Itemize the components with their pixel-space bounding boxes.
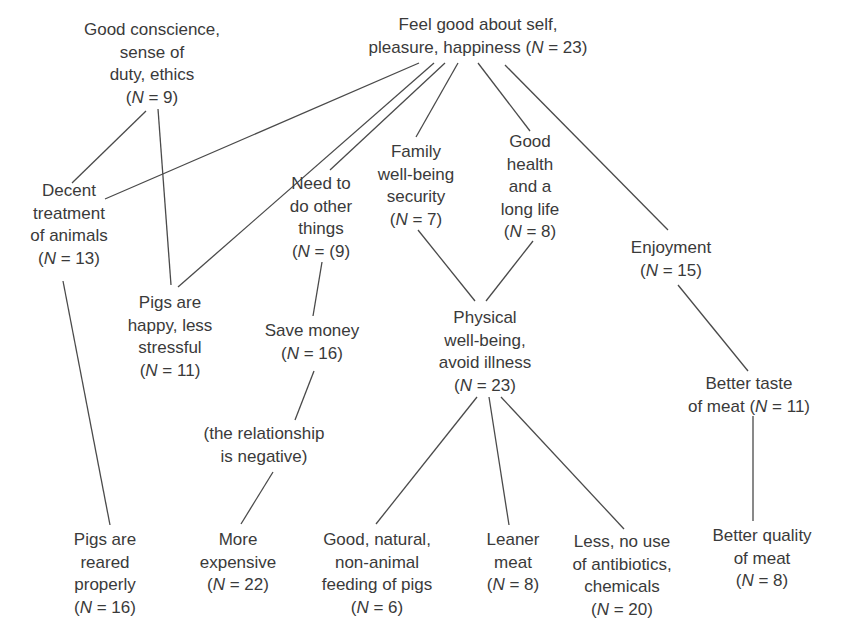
node-label-line: Family [378,141,455,164]
edge-family-to-physical [418,230,475,301]
node-enjoyment: Enjoyment(N = 15) [631,237,711,282]
node-label-line: (N = 11) [128,360,213,383]
node-label-line: (N = 23) [439,375,532,398]
edge-save_money-to-negative [295,371,314,420]
edge-decent-to-pigs_reared [63,281,110,525]
node-feeding: Good, natural,non-animalfeeding of pigs(… [322,529,433,619]
node-physical: Physicalwell-being,avoid illness(N = 23) [439,307,532,397]
node-label-line: (N = (9) [290,241,352,264]
node-label-line: (N = 8) [487,574,540,597]
node-negative: (the relationshipis negative) [204,423,325,468]
node-label-line: is negative) [204,446,325,469]
edge-physical-to-feeding [376,397,477,524]
node-label-line: treatment [30,203,107,226]
node-label-line: Good [501,131,560,154]
node-label-line: More [200,529,277,552]
node-label-line: Better quality [712,525,811,548]
node-label-line: (N = 7) [378,209,455,232]
node-save-money: Save money(N = 16) [265,320,360,365]
node-label-line: of meat (N = 11) [688,396,810,419]
node-label-line: meat [487,552,540,575]
node-label-line: Good conscience, [84,19,220,42]
node-need-other: Need todo otherthings(N = (9) [290,173,352,263]
node-family: Familywell-beingsecurity(N = 7) [378,141,455,231]
node-label-line: Better taste [688,373,810,396]
edge-feel_good-to-health [478,63,530,131]
node-label-line: Feel good about self, [369,14,588,37]
node-label-line: Good, natural, [322,529,433,552]
node-label-line: properly [74,574,136,597]
node-label-line: non-animal [322,552,433,575]
node-label-line: duty, ethics [84,64,220,87]
node-taste: Better tasteof meat (N = 11) [688,373,810,418]
node-label-line: happy, less [128,315,213,338]
node-label-line: of animals [30,225,107,248]
node-label-line: Less, no use [572,531,671,554]
node-label-line: (N = 22) [200,574,277,597]
edge-conscience-to-pigs_happy [158,109,171,285]
node-label-line: (N = 16) [265,343,360,366]
node-label-line: Enjoyment [631,237,711,260]
node-pigs-reared: Pigs arerearedproperly(N = 16) [74,529,136,619]
edge-need_other-to-save_money [313,262,322,316]
edge-physical-to-leaner [489,397,509,525]
node-label-line: Pigs are [128,292,213,315]
node-pigs-happy: Pigs arehappy, lessstressful(N = 11) [128,292,213,382]
node-feel-good: Feel good about self,pleasure, happiness… [369,14,588,59]
node-label-line: pleasure, happiness (N = 23) [369,37,588,60]
node-label-line: (N = 8) [501,221,560,244]
node-label-line: (N = 15) [631,260,711,283]
node-label-line: sense of [84,42,220,65]
node-label-line: reared [74,552,136,575]
node-label-line: Save money [265,320,360,343]
node-label-line: well-being, [439,330,532,353]
node-label-line: (N = 9) [84,87,220,110]
node-health: Goodhealthand along life(N = 8) [501,131,560,244]
node-label-line: chemicals [572,576,671,599]
node-label-line: long life [501,199,560,222]
node-label-line: Need to [290,173,352,196]
node-label-line: of meat [712,548,811,571]
edge-negative-to-expensive [241,472,273,524]
node-leaner: Leanermeat(N = 8) [487,529,540,597]
node-label-line: (N = 16) [74,597,136,620]
node-label-line: (the relationship [204,423,325,446]
node-label-line: feeding of pigs [322,574,433,597]
edge-enjoyment-to-taste [678,285,748,371]
node-label-line: stressful [128,337,213,360]
node-label-line: Decent [30,180,107,203]
node-label-line: (N = 6) [322,597,433,620]
node-label-line: Physical [439,307,532,330]
node-label-line: (N = 13) [30,248,107,271]
node-label-line: things [290,218,352,241]
node-antibiotics: Less, no useof antibiotics,chemicals(N =… [572,531,671,621]
node-label-line: Pigs are [74,529,136,552]
node-conscience: Good conscience,sense ofduty, ethics(N =… [84,19,220,109]
node-decent: Decenttreatmentof animals(N = 13) [30,180,107,270]
node-label-line: and a [501,176,560,199]
node-label-line: security [378,186,455,209]
node-label-line: well-being [378,164,455,187]
node-label-line: (N = 8) [712,570,811,593]
node-label-line: Leaner [487,529,540,552]
node-label-line: health [501,154,560,177]
node-quality: Better qualityof meat(N = 8) [712,525,811,593]
node-label-line: expensive [200,552,277,575]
node-expensive: Moreexpensive(N = 22) [200,529,277,597]
node-label-line: of antibiotics, [572,554,671,577]
edge-health-to-physical [486,241,533,301]
edge-conscience-to-decent [72,111,146,183]
node-label-line: avoid illness [439,352,532,375]
edge-physical-to-antibiotics [501,397,624,529]
node-label-line: do other [290,196,352,219]
node-label-line: (N = 20) [572,599,671,622]
